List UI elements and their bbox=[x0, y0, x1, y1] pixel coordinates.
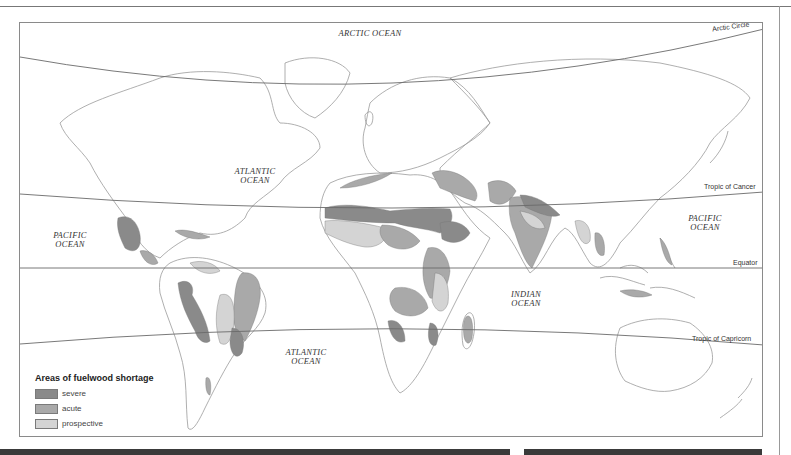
bottom-bar-right bbox=[524, 449, 762, 455]
top-rule bbox=[0, 6, 791, 7]
region-north-africa-acute bbox=[340, 173, 392, 188]
legend-label-acute: acute bbox=[62, 404, 82, 413]
legend-label-prospective: prospective bbox=[62, 419, 103, 428]
right-rule bbox=[779, 6, 780, 455]
legend-item-acute: acute bbox=[35, 402, 154, 415]
region-mozambique-severe bbox=[428, 323, 438, 346]
region-southern-africa-acute bbox=[390, 287, 428, 316]
legend: Areas of fuelwood shortage severe acute … bbox=[35, 373, 154, 432]
acute-swatch bbox=[35, 404, 58, 414]
ocean-label-atlantic-south: ATLANTIC OCEAN bbox=[276, 348, 336, 366]
region-horn-of-africa-severe bbox=[440, 221, 470, 242]
landmass-europe bbox=[363, 77, 490, 173]
legend-label-severe: severe bbox=[62, 389, 86, 398]
region-northern-sa-prospective bbox=[190, 261, 220, 273]
region-southeast-asia-prospective bbox=[575, 220, 590, 243]
tropic-of-cancer-line bbox=[20, 192, 763, 208]
region-java-acute bbox=[620, 290, 652, 297]
region-southern-africa-severe bbox=[388, 320, 405, 342]
ocean-label-indian: INDIAN OCEAN bbox=[496, 290, 556, 308]
equator-label: Equator bbox=[733, 259, 758, 266]
region-caribbean-acute bbox=[175, 230, 210, 239]
legend-item-prospective: prospective bbox=[35, 417, 154, 430]
region-west-africa-prospective bbox=[325, 220, 386, 247]
prospective-swatch bbox=[35, 419, 58, 429]
region-chile-acute bbox=[206, 377, 211, 395]
ocean-label-atlantic-north: ATLANTIC OCEAN bbox=[225, 167, 285, 185]
landmass-british-isles bbox=[365, 112, 373, 126]
ocean-label-pacific-west: PACIFIC OCEAN bbox=[40, 231, 100, 249]
legend-title: Areas of fuelwood shortage bbox=[35, 373, 154, 383]
landmass-australia bbox=[615, 319, 712, 392]
landmass-new-zealand bbox=[720, 378, 752, 418]
region-southeast-asia-acute bbox=[595, 233, 605, 256]
legend-item-severe: severe bbox=[35, 387, 154, 400]
region-philippines-acute bbox=[660, 238, 672, 265]
bottom-bar-left bbox=[0, 449, 510, 455]
ocean-label-arctic: ARCTIC OCEAN bbox=[320, 29, 420, 38]
region-middle-east-acute bbox=[432, 171, 477, 201]
landmass-greenland bbox=[285, 58, 350, 118]
tropic-of-capricorn-label: Tropic of Capricorn bbox=[692, 335, 751, 342]
severe-swatch bbox=[35, 389, 58, 399]
region-west-africa-acute bbox=[380, 225, 420, 249]
tropic-of-cancer-label: Tropic of Cancer bbox=[704, 183, 755, 190]
landmass-japan bbox=[710, 131, 728, 163]
region-mexico-severe bbox=[117, 217, 140, 251]
ocean-label-pacific-east: PACIFIC OCEAN bbox=[675, 214, 735, 232]
world-map: ARCTIC OCEAN ATLANTIC OCEAN PACIFIC OCEA… bbox=[19, 22, 763, 437]
region-central-america-acute bbox=[140, 251, 158, 265]
